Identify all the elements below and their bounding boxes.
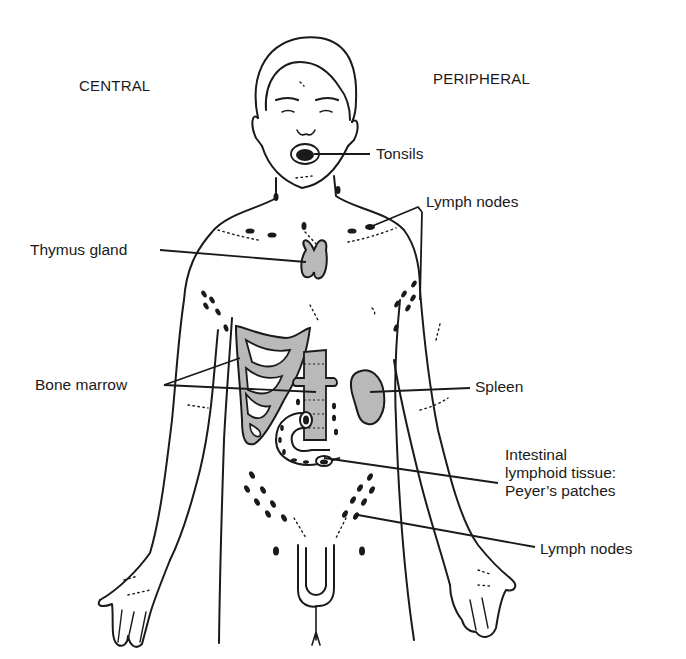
heading-central: CENTRAL [79, 77, 150, 95]
label-intestinal-lymphoid-tissue: Intestinal lymphoid tissue: Peyer’s patc… [505, 446, 616, 500]
label-tonsils: Tonsils [376, 145, 423, 163]
lymphoid-organs-diagram: CENTRAL PERIPHERAL Tonsils Lymph nodes T… [0, 0, 686, 659]
label-intestinal-line2: lymphoid tissue: [505, 464, 616, 482]
spleen [351, 370, 385, 424]
body-illustration [0, 0, 686, 659]
label-lymph-nodes-upper: Lymph nodes [426, 193, 519, 211]
head-outline [252, 37, 357, 188]
heading-peripheral: PERIPHERAL [433, 70, 530, 88]
label-spleen: Spleen [475, 378, 523, 396]
label-lymph-nodes-lower: Lymph nodes [540, 540, 633, 558]
label-intestinal-line1: Intestinal [505, 446, 616, 464]
label-intestinal-line3: Peyer’s patches [505, 482, 616, 500]
label-bone-marrow: Bone marrow [35, 376, 127, 394]
thymus-gland [301, 240, 327, 278]
label-thymus-gland: Thymus gland [30, 241, 127, 259]
